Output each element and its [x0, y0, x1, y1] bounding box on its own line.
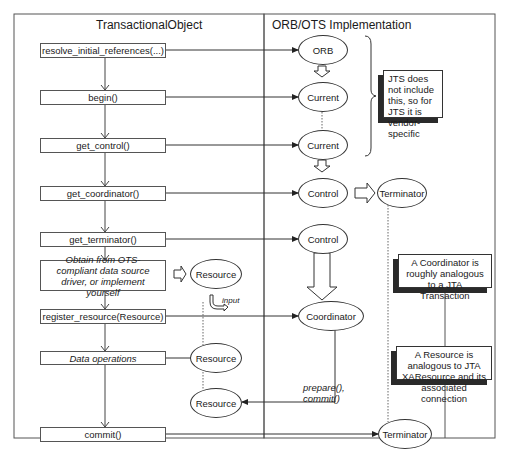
step-get-control: get_control() [40, 138, 166, 153]
input-label: input [222, 296, 239, 305]
orb-ots-header: ORB/OTS Implementation [272, 18, 411, 32]
step-commit: commit() [40, 427, 166, 442]
control-node-2: Control [298, 224, 348, 254]
coordinator-note: A Coordinator is roughly analogous to a … [398, 254, 492, 288]
step-get-coordinator: get_coordinator() [40, 186, 166, 201]
step-get-terminator: get_terminator() [40, 232, 166, 247]
current-node-1: Current [298, 82, 348, 112]
prepare-commit-label: prepare(), commit() [303, 382, 337, 404]
resource-node-2: Resource [190, 343, 242, 373]
resource-node-3: Resource [190, 388, 242, 418]
resource-note: A Resource is analogous to JTA XAResourc… [396, 346, 492, 380]
step-data-operations: Data operations [40, 351, 166, 365]
terminator-node-2: Terminator [378, 419, 432, 449]
commit-label: commit() [303, 393, 340, 404]
brace [365, 36, 376, 156]
resource-node-1: Resource [190, 259, 242, 289]
step-register-resource: register_resource(Resource) [40, 309, 166, 324]
step-begin: begin() [40, 90, 166, 105]
orb-node: ORB [298, 35, 348, 65]
step-obtain-resource: Obtain from OTS-compliant data source dr… [40, 260, 166, 291]
control-node-1: Control [298, 178, 348, 208]
transactional-object-frame [14, 14, 264, 438]
current-node-2: Current [298, 130, 348, 160]
step-resolve-initial-references: resolve_initial_references(...) [40, 43, 166, 58]
jts-note: JTS does not include this, so for JTS it… [383, 70, 443, 118]
prepare-label: prepare(), [303, 382, 345, 393]
transactional-object-header: TransactionalObject [96, 18, 202, 32]
coordinator-node: Coordinator [298, 301, 364, 331]
terminator-node-1: Terminator [377, 178, 427, 208]
